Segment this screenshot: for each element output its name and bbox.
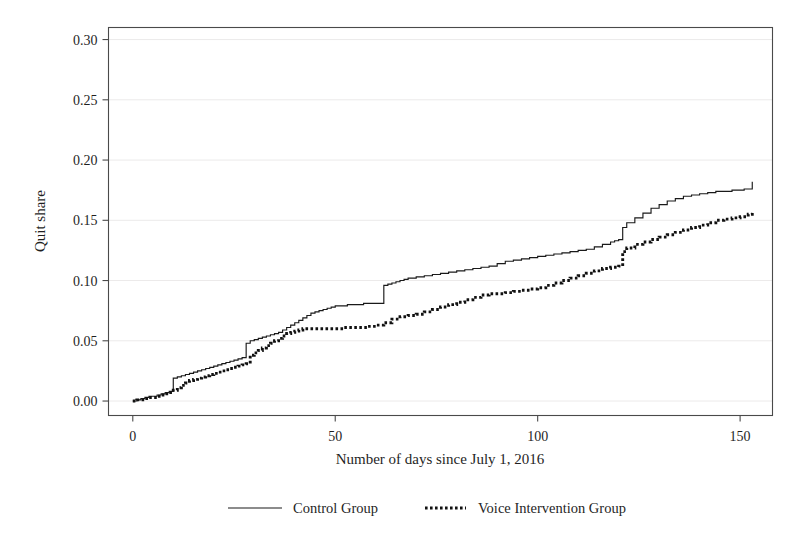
x-tick-label: 100	[527, 429, 548, 444]
y-tick-label: 0.30	[73, 33, 98, 48]
chart-legend: Control Group Voice Intervention Group	[228, 500, 626, 516]
y-tick-label: 0.25	[73, 93, 98, 108]
legend-label-voice-intervention-group: Voice Intervention Group	[478, 500, 626, 516]
quit-share-chart: 0.000.050.100.150.200.250.30 050100150 Q…	[0, 0, 798, 550]
plot-frame	[109, 28, 773, 416]
y-tick-label: 0.10	[73, 274, 98, 289]
y-tick-label: 0.15	[73, 213, 98, 228]
y-tick-label: 0.00	[73, 394, 98, 409]
series-path-control-group	[133, 182, 752, 401]
y-tick-label: 0.20	[73, 153, 98, 168]
x-axis-tick-labels: 050100150	[129, 429, 750, 444]
y-axis-tick-labels: 0.000.050.100.150.200.250.30	[73, 33, 98, 409]
series-path-voice-intervention-group	[133, 212, 752, 401]
x-tick-label: 0	[129, 429, 136, 444]
y-axis-title: Quit share	[32, 190, 48, 252]
x-tick-label: 50	[328, 429, 342, 444]
axis-tickmarks	[103, 40, 741, 422]
x-tick-label: 150	[730, 429, 751, 444]
legend-label-control-group: Control Group	[293, 500, 378, 516]
data-series-layer	[133, 182, 752, 401]
y-tick-label: 0.05	[73, 334, 98, 349]
x-axis-title: Number of days since July 1, 2016	[336, 451, 545, 467]
gridlines	[109, 40, 773, 401]
